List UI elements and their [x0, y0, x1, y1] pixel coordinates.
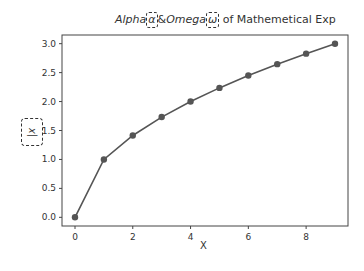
- y-tick-label: 1.5: [42, 126, 56, 136]
- y-tick-label: 1.0: [42, 154, 57, 164]
- y-ticks: 0.00.51.01.52.02.53.0: [42, 39, 62, 223]
- x-tick-label: 6: [245, 232, 251, 242]
- y-tick-label: 3.0: [42, 39, 57, 49]
- line-chart: 0.00.51.01.52.02.53.0 02468: [0, 0, 364, 271]
- data-point: [245, 72, 251, 78]
- data-point: [101, 156, 107, 162]
- x-tick-label: 2: [130, 232, 136, 242]
- data-point: [332, 40, 338, 46]
- x-ticks: 02468: [72, 226, 309, 242]
- data-point: [130, 132, 136, 138]
- x-tick-label: 8: [303, 232, 309, 242]
- data-point: [72, 214, 78, 220]
- data-point: [303, 50, 309, 56]
- y-tick-label: 2.5: [42, 68, 56, 78]
- data-point: [274, 61, 280, 67]
- plot-area: [62, 35, 348, 226]
- y-tick-label: 0.5: [42, 183, 56, 193]
- data-point: [187, 98, 193, 104]
- y-tick-label: 2.0: [42, 97, 57, 107]
- data-point: [158, 114, 164, 120]
- data-point: [216, 85, 222, 91]
- y-tick-label: 0.0: [42, 212, 57, 222]
- x-tick-label: 0: [72, 232, 78, 242]
- data-series: [72, 40, 338, 220]
- x-tick-label: 4: [188, 232, 194, 242]
- series-line: [75, 44, 335, 218]
